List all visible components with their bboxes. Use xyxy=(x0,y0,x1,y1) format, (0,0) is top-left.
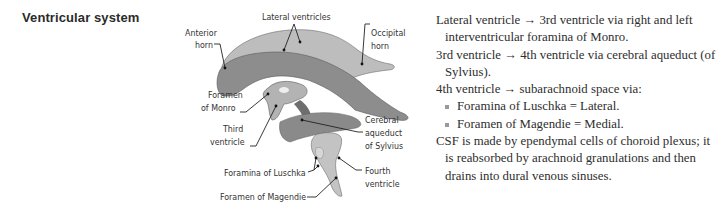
label-anterior-horn-2: horn xyxy=(195,39,213,51)
label-fourth-ventricle: Fourth xyxy=(365,165,390,177)
notes-text: Lateral ventricle → 3rd ventricle via ri… xyxy=(436,12,721,185)
ventricular-system-diagram: Lateral ventricles Anterior horn Occipit… xyxy=(150,0,420,215)
note-fourth-to-subarachnoid: 4th ventricle → subarachnoid space via: xyxy=(436,81,721,98)
label-foramina-luschka: Foramina of Luschka xyxy=(224,167,306,179)
label-foramen-monro: Foramen xyxy=(208,89,243,101)
label-cerebral-aqueduct-3: of Sylvius xyxy=(365,140,403,152)
label-foramen-monro-2: of Monro xyxy=(201,102,236,114)
note-lateral-to-third: Lateral ventricle → 3rd ventricle via ri… xyxy=(436,12,721,47)
bullet-text: Foramen of Magendie = Medial. xyxy=(457,117,624,131)
label-cerebral-aqueduct: Cerebral xyxy=(365,114,399,126)
label-lateral-ventricles: Lateral ventricles xyxy=(262,11,331,23)
bullet-marker xyxy=(445,105,449,109)
label-third-ventricle: Third xyxy=(223,123,243,135)
note-third-to-fourth: 3rd ventricle → 4th ventricle via cerebr… xyxy=(436,47,721,82)
label-anterior-horn: Anterior xyxy=(185,27,217,39)
bullet-luschka: Foramina of Luschka = Lateral. xyxy=(436,98,721,115)
label-third-ventricle-2: ventricle xyxy=(210,136,244,148)
label-occipital-horn-2: horn xyxy=(371,40,389,52)
label-foramen-magendie: Foramen of Magendie xyxy=(220,191,306,203)
bullet-magendie: Foramen of Magendie = Medial. xyxy=(436,116,721,133)
bullet-text: Foramina of Luschka = Lateral. xyxy=(457,99,620,113)
bullet-marker xyxy=(445,123,449,127)
label-occipital-horn: Occipital xyxy=(371,27,405,39)
section-heading: Ventricular system xyxy=(22,10,139,25)
note-csf-production: CSF is made by ependymal cells of choroi… xyxy=(436,133,721,185)
label-cerebral-aqueduct-2: aqueduct xyxy=(365,127,402,139)
label-fourth-ventricle-2: ventricle xyxy=(365,178,399,190)
